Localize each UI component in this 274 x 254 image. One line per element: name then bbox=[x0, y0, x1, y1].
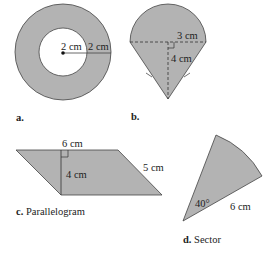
parallelogram-shape bbox=[16, 150, 162, 195]
inner-radius-label: 2 cm bbox=[61, 41, 82, 52]
caption-a: a. bbox=[16, 112, 24, 123]
height-label: 4 cm bbox=[66, 169, 87, 180]
side-label: 5 cm bbox=[143, 162, 164, 173]
figure-c-parallelogram: 6 cm 4 cm 5 cm c. Parallelogram bbox=[16, 138, 164, 217]
geometry-figures: 2 cm 2 cm a. 3 cm 4 cm b. 6 cm 4 cm 5 cm… bbox=[0, 0, 274, 254]
angle-label: 40° bbox=[195, 198, 210, 209]
figure-d-sector: 40° 6 cm d. Sector bbox=[183, 135, 262, 245]
caption-b: b. bbox=[131, 111, 140, 122]
figure-a-annulus: 2 cm 2 cm a. bbox=[15, 4, 111, 123]
radius-label: 3 cm bbox=[177, 30, 198, 41]
height-label: 4 cm bbox=[171, 53, 192, 64]
radius-label: 6 cm bbox=[230, 201, 251, 212]
caption-c: c. Parallelogram bbox=[16, 206, 85, 217]
figure-b-composite: 3 cm 4 cm b. bbox=[130, 4, 206, 122]
ring-width-label: 2 cm bbox=[88, 41, 109, 52]
base-label: 6 cm bbox=[62, 138, 83, 149]
caption-d: d. Sector bbox=[183, 234, 221, 245]
